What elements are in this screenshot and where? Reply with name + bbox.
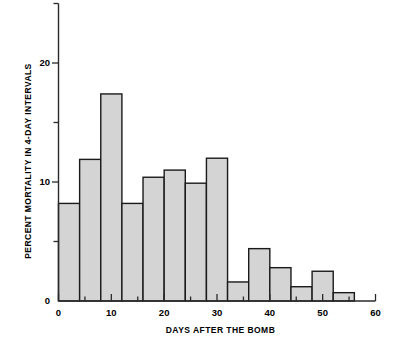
histogram-bar — [143, 177, 164, 301]
mortality-histogram-chart: PERCENT MORTALITY IN 4-DAY INTERVALS DAY… — [0, 0, 411, 348]
histogram-bar — [333, 293, 354, 301]
histogram-bar — [291, 287, 312, 301]
histogram-bar — [59, 203, 80, 301]
histogram-bar — [249, 249, 270, 301]
histogram-bar — [270, 268, 291, 301]
histogram-bar — [164, 170, 185, 301]
histogram-bar — [206, 158, 227, 301]
plot-area — [0, 0, 411, 348]
histogram-bar — [101, 94, 122, 301]
histogram-bar — [122, 203, 143, 301]
histogram-bar — [228, 282, 249, 301]
histogram-bar — [80, 159, 101, 301]
histogram-bar — [185, 183, 206, 301]
bars-group — [59, 94, 355, 301]
